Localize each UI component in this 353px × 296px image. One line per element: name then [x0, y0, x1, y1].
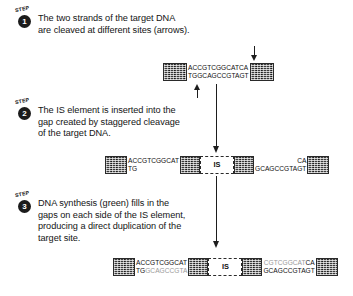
step-3-left-top: ACCGTCGGCAT	[136, 259, 187, 267]
target-dna-block-left	[105, 156, 127, 174]
target-dna-block-right	[307, 156, 329, 174]
step-3-left-bottom-synthesized: GCAGCCGTA	[145, 267, 187, 274]
step-2-number: 2	[18, 107, 31, 120]
step-3-right-top: CGTCGGCATCA	[264, 259, 315, 267]
step-2-left-top: ACCGTCGGCAT	[128, 157, 179, 165]
is-inverted-repeat-right	[242, 258, 262, 276]
step-3-left-bottom-original: TG	[136, 267, 145, 274]
step-1-sequence: ACCGTCGGCATCA TGGCAGCCGTAGT	[187, 63, 250, 81]
step1-to-step2-arrow-head	[213, 146, 219, 153]
step-2-right-sequence: CA GCAGCCGTAGT	[254, 156, 307, 174]
step-1-sequence-top: ACCGTCGGCATCA	[188, 64, 249, 72]
target-dna-block-left	[113, 258, 135, 276]
step-1-number: 1	[18, 15, 31, 28]
step2-to-step3-arrow-head	[213, 241, 219, 248]
step-2-left-sequence: ACCGTCGGCAT TG	[127, 156, 180, 174]
step-1-description: The two strands of the target DNA are cl…	[38, 13, 190, 36]
step-2-left-bottom: TG	[128, 165, 179, 173]
step-3-left-sequence: ACCGTCGGCAT TGGCAGCCGTA	[135, 258, 188, 276]
step1-to-step2-connector-line	[216, 84, 217, 148]
step-3-number: 3	[18, 200, 31, 213]
step-3-right-top-synthesized: CGTCGGCAT	[264, 259, 306, 266]
target-dna-block-left	[163, 63, 187, 81]
step-3-description: DNA synthesis (green) fills in the gaps …	[38, 198, 185, 244]
step-2-right-top: CA	[297, 157, 306, 165]
cleavage-arrow-bottom-stem	[197, 89, 198, 98]
target-dna-block-right	[316, 258, 338, 276]
step-2-dna-duplex: ACCGTCGGCAT TG IS CA GCAGCCGTAGT	[105, 156, 329, 174]
is-element-label: IS	[208, 258, 242, 276]
step-3-left-bottom: TGGCAGCCGTA	[136, 267, 187, 275]
step2-to-step3-connector-line	[216, 176, 217, 243]
target-dna-block-right	[250, 63, 274, 81]
is-inverted-repeat-left	[188, 258, 208, 276]
step-2-right-bottom: GCAGCCGTAGT	[255, 165, 306, 173]
step-1-sequence-bottom: TGGCAGCCGTAGT	[188, 72, 249, 80]
is-element-label: IS	[200, 156, 234, 174]
is-inverted-repeat-right	[234, 156, 254, 174]
cleavage-site-top-strand-icon	[251, 55, 257, 61]
step-2-description: The IS element is inserted into the gap …	[38, 105, 180, 140]
is-inverted-repeat-left	[180, 156, 200, 174]
step-1-dna-duplex: ACCGTCGGCATCA TGGCAGCCGTAGT	[163, 63, 274, 81]
step-3-right-bottom: GCAGCCGTAGT	[263, 267, 314, 275]
step-3-dna-duplex: ACCGTCGGCAT TGGCAGCCGTA IS CGTCGGCATCA G…	[113, 258, 338, 276]
step-3-right-sequence: CGTCGGCATCA GCAGCCGTAGT	[262, 258, 315, 276]
step-3-right-top-original: CA	[306, 259, 315, 266]
